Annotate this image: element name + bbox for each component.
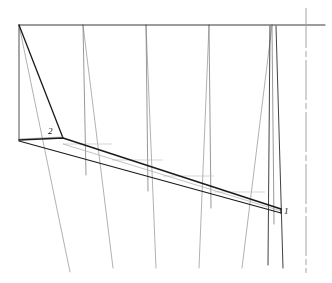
band-bottom-edge [19, 141, 281, 213]
generator-slant-4 [199, 25, 209, 268]
callout-label-1: 1 [284, 207, 289, 216]
right-vertical-inner [268, 26, 270, 265]
band-tick-marks [63, 144, 265, 192]
callout-label-2: 2 [48, 127, 53, 136]
lead-diagonal [19, 25, 63, 138]
generator-vertical-lines [83, 25, 274, 224]
band-inner-edge [63, 144, 281, 211]
right-vertical-outer [276, 26, 283, 268]
band-inner-edge-path [63, 144, 281, 211]
technical-drawing-canvas: 1 2 [0, 0, 332, 283]
sloping-band [19, 138, 281, 213]
generator-vertical-5 [272, 25, 274, 224]
generator-slant-lines [19, 25, 272, 272]
generator-slant-5 [242, 25, 272, 268]
right-vertical-pair [268, 26, 283, 268]
generator-vertical-4 [209, 25, 211, 208]
band-top-edge [19, 138, 281, 209]
drawing-vector-layer [0, 0, 332, 283]
